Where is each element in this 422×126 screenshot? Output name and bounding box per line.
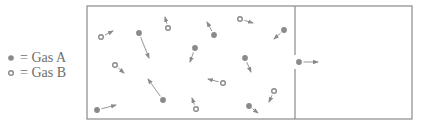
- gas-a-particle: [190, 45, 198, 62]
- filled-dot-icon: [211, 32, 217, 38]
- velocity-arrow-icon: [244, 20, 253, 23]
- gas-b-particle: [113, 63, 124, 73]
- gas-b-particle: [238, 17, 253, 23]
- velocity-arrow-icon: [148, 79, 160, 96]
- gas-a-particle: [296, 59, 318, 65]
- velocity-arrow-icon: [274, 33, 281, 39]
- velocity-arrow-icon: [253, 109, 258, 113]
- gas-b-particle: [99, 31, 113, 39]
- filled-dot-icon: [192, 45, 198, 51]
- gas-a-particle: [207, 22, 217, 38]
- filled-dot-icon: [296, 59, 302, 65]
- filled-dot-icon: [242, 55, 248, 61]
- filled-dot-icon: [246, 103, 252, 109]
- hollow-dot-icon: [272, 89, 277, 94]
- hollow-dot-icon: [238, 17, 243, 22]
- gas-b-particle: [192, 98, 198, 111]
- container-box: [87, 6, 412, 119]
- velocity-arrow-icon: [105, 31, 113, 35]
- particles: [94, 17, 318, 113]
- velocity-arrow-icon: [192, 98, 194, 105]
- filled-dot-icon: [94, 107, 100, 113]
- gas-b-particle: [165, 17, 170, 30]
- gas-a-particle: [94, 105, 116, 113]
- gas-a-particle: [136, 30, 149, 58]
- velocity-arrow-icon: [118, 68, 124, 73]
- gas-a-particle: [246, 103, 258, 113]
- gas-a-particle: [274, 27, 287, 39]
- gas-b-particle: [208, 79, 225, 85]
- velocity-arrow-icon: [207, 22, 212, 31]
- filled-dot-icon: [136, 30, 142, 36]
- gas-b-particle: [269, 89, 276, 102]
- velocity-arrow-icon: [208, 79, 219, 82]
- filled-dot-icon: [160, 97, 166, 103]
- velocity-arrow-icon: [141, 37, 149, 58]
- velocity-arrow-icon: [165, 17, 167, 24]
- gas-a-particle: [242, 55, 251, 72]
- velocity-arrow-icon: [190, 52, 193, 62]
- hollow-dot-icon: [99, 35, 104, 40]
- gas-a-particle: [148, 79, 166, 103]
- velocity-arrow-icon: [247, 62, 251, 72]
- velocity-arrow-icon: [269, 95, 272, 102]
- velocity-arrow-icon: [101, 105, 116, 109]
- hollow-dot-icon: [221, 81, 226, 86]
- hollow-dot-icon: [113, 63, 118, 68]
- hollow-dot-icon: [166, 26, 171, 31]
- hollow-dot-icon: [194, 107, 199, 112]
- filled-dot-icon: [281, 27, 287, 33]
- effusion-diagram: [0, 0, 422, 126]
